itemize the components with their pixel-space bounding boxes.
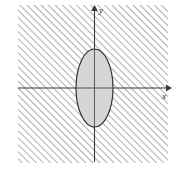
ellipse-inequality-diagram: x y [0, 0, 175, 171]
x-axis-arrowhead-icon [166, 85, 172, 92]
y-axis-label: y [98, 5, 103, 15]
figure-container: x y [0, 0, 175, 171]
x-axis-label: x [161, 91, 166, 101]
